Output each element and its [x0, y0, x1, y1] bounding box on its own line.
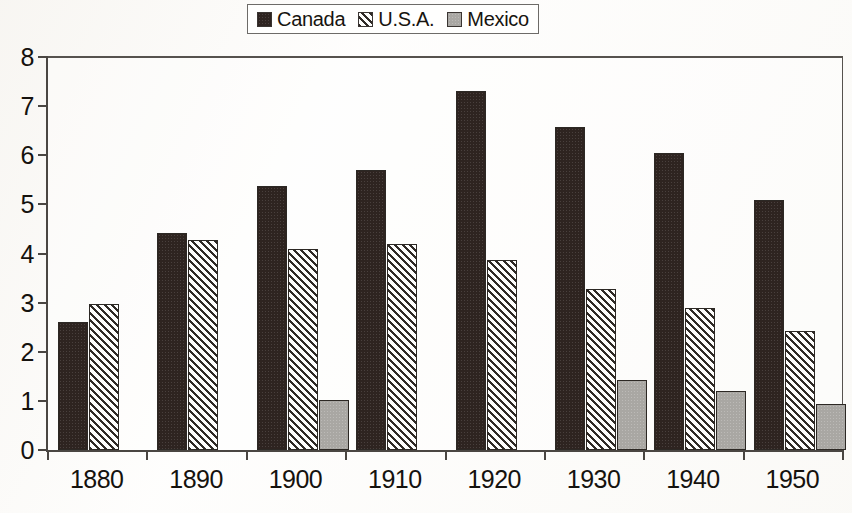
y-axis-labels: 012345678 [0, 0, 34, 513]
x-tick-1940 [643, 451, 645, 460]
legend-item-canada: Canada [257, 8, 345, 31]
y-tick-7 [38, 105, 47, 107]
bar-usa-1940 [685, 308, 715, 450]
x-tick-1930 [544, 451, 546, 460]
bar-mexico-1900 [319, 400, 349, 450]
y-tick-5 [38, 203, 47, 205]
y-tick-label-0: 0 [4, 436, 34, 465]
bar-canada-1940 [654, 153, 684, 450]
bar-mexico-1930 [617, 380, 647, 450]
legend-swatch-mexico-icon [447, 12, 462, 27]
legend-label-mexico: Mexico [467, 8, 529, 31]
x-tick-end [842, 451, 844, 460]
bar-usa-1920 [487, 260, 517, 450]
y-tick-2 [38, 351, 47, 353]
y-tick-label-6: 6 [4, 141, 34, 170]
bar-mexico-1950 [816, 404, 846, 450]
legend-swatch-canada-icon [257, 12, 272, 27]
bar-canada-1890 [157, 233, 187, 450]
bar-usa-1880 [89, 304, 119, 450]
x-tick-label-1940: 1940 [666, 465, 720, 494]
y-tick-label-1: 1 [4, 386, 34, 415]
legend-item-mexico: Mexico [447, 8, 529, 31]
y-tick-label-5: 5 [4, 190, 34, 219]
y-tick-label-7: 7 [4, 92, 34, 121]
bar-usa-1890 [188, 240, 218, 450]
x-tick-label-1930: 1930 [567, 465, 621, 494]
bar-series-group [47, 57, 842, 450]
x-tick-1910 [345, 451, 347, 460]
x-tick-1880 [47, 451, 49, 460]
legend-swatch-usa-icon [358, 12, 373, 27]
bar-usa-1950 [785, 331, 815, 450]
y-tick-4 [38, 253, 47, 255]
y-tick-0 [38, 449, 47, 451]
y-tick-label-4: 4 [4, 239, 34, 268]
bar-canada-1920 [456, 91, 486, 450]
x-tick-1950 [743, 451, 745, 460]
x-tick-1900 [246, 451, 248, 460]
bar-canada-1950 [754, 200, 784, 450]
x-tick-1890 [146, 451, 148, 460]
x-tick-label-1950: 1950 [766, 465, 820, 494]
x-tick-1920 [445, 451, 447, 460]
y-tick-3 [38, 302, 47, 304]
y-tick-1 [38, 400, 47, 402]
chart-page: Canada U.S.A. Mexico 012345678 188018901… [0, 0, 852, 513]
bar-canada-1900 [257, 186, 287, 450]
x-tick-label-1900: 1900 [269, 465, 323, 494]
legend-label-canada: Canada [277, 8, 345, 31]
y-tick-6 [38, 154, 47, 156]
bar-usa-1930 [586, 289, 616, 450]
y-tick-label-3: 3 [4, 288, 34, 317]
bar-usa-1900 [288, 249, 318, 450]
y-tick-label-8: 8 [4, 43, 34, 72]
chart-legend: Canada U.S.A. Mexico [247, 4, 539, 34]
y-tick-8 [38, 56, 47, 58]
bar-usa-1910 [387, 244, 417, 450]
bar-mexico-1940 [716, 391, 746, 450]
y-tick-label-2: 2 [4, 337, 34, 366]
x-tick-label-1920: 1920 [467, 465, 521, 494]
bar-canada-1880 [58, 322, 88, 450]
legend-label-usa: U.S.A. [378, 8, 434, 31]
x-tick-label-1880: 1880 [70, 465, 124, 494]
x-tick-label-1890: 1890 [169, 465, 223, 494]
x-tick-label-1910: 1910 [368, 465, 422, 494]
legend-item-usa: U.S.A. [358, 8, 434, 31]
bar-canada-1910 [356, 170, 386, 451]
bar-canada-1930 [555, 127, 585, 450]
